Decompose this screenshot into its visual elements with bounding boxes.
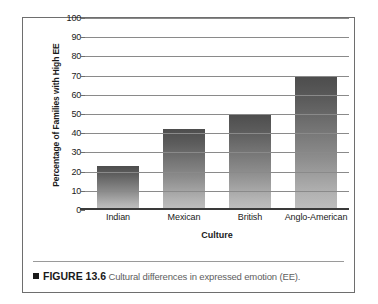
y-axis-tick-label: 100: [55, 13, 81, 23]
y-axis-tick-mark: [80, 191, 85, 192]
chart-gridlines-and-bars: [85, 18, 349, 210]
caption-divider: [33, 261, 344, 262]
y-axis-tick-labels: 0102030405060708090100: [55, 18, 81, 250]
y-axis-tick-mark: [80, 114, 85, 115]
y-axis-tick-label: 80: [55, 51, 81, 61]
gridline: [85, 172, 349, 173]
figure-number-label: FIGURE 13.6: [43, 270, 106, 282]
gridline: [85, 56, 349, 57]
x-axis-tick-label: Anglo-American: [285, 212, 348, 222]
y-axis-tick-label: 50: [55, 109, 81, 119]
y-axis-tick-label: 30: [55, 147, 81, 157]
gridline: [85, 95, 349, 96]
figure-caption-text: Cultural differences in expressed emotio…: [106, 271, 300, 282]
bar-anglo-american: [295, 77, 337, 208]
bar-british: [229, 114, 271, 208]
y-axis-tick-label: 90: [55, 32, 81, 42]
gridline: [85, 37, 349, 38]
figure-container: Percentage of Families with High EE 0102…: [0, 0, 378, 304]
y-axis-tick-mark: [80, 56, 85, 57]
x-axis-title: Culture: [85, 230, 349, 240]
y-axis-tick-mark: [80, 133, 85, 134]
bar-mexican: [163, 129, 205, 208]
gridline: [85, 152, 349, 153]
y-axis-tick-mark: [80, 152, 85, 153]
y-axis-tick-mark: [80, 76, 85, 77]
gridline: [85, 191, 349, 192]
gridline: [85, 114, 349, 115]
y-axis-tick-label: 70: [55, 71, 81, 81]
y-axis-tick-mark: [80, 210, 85, 211]
y-axis-tick-label: 40: [55, 128, 81, 138]
y-axis-tick-label: 20: [55, 167, 81, 177]
x-axis-tick-labels: IndianMexicanBritishAnglo-American: [85, 212, 349, 230]
black-square-icon: [33, 273, 39, 279]
chart-plot-area: Percentage of Families with High EE 0102…: [23, 18, 354, 250]
gridline: [85, 76, 349, 77]
x-axis-tick-label: British: [238, 212, 262, 222]
y-axis-tick-mark: [80, 172, 85, 173]
gridline: [85, 133, 349, 134]
gridline: [85, 18, 349, 19]
x-axis-line: [80, 208, 349, 210]
x-axis-tick-label: Indian: [106, 212, 130, 222]
y-axis-tick-label: 60: [55, 90, 81, 100]
figure-caption: FIGURE 13.6 Cultural differences in expr…: [33, 270, 348, 282]
y-axis-tick-mark: [80, 95, 85, 96]
y-axis-tick-mark: [80, 37, 85, 38]
y-axis-tick-label: 0: [55, 205, 81, 215]
figure-frame: Percentage of Families with High EE 0102…: [22, 17, 355, 293]
y-axis-tick-mark: [80, 18, 85, 19]
y-axis-tick-label: 10: [55, 186, 81, 196]
x-axis-tick-label: Mexican: [168, 212, 201, 222]
